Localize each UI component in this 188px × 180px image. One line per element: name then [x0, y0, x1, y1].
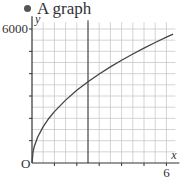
chart: 66000yxO	[0, 0, 188, 180]
x-tick-label: 6	[163, 165, 170, 180]
y-tick-label: 6000	[2, 21, 28, 36]
x-axis-label: x	[170, 148, 177, 162]
origin-label: O	[21, 156, 30, 171]
series-line	[32, 34, 173, 163]
y-axis-label: y	[34, 12, 41, 26]
